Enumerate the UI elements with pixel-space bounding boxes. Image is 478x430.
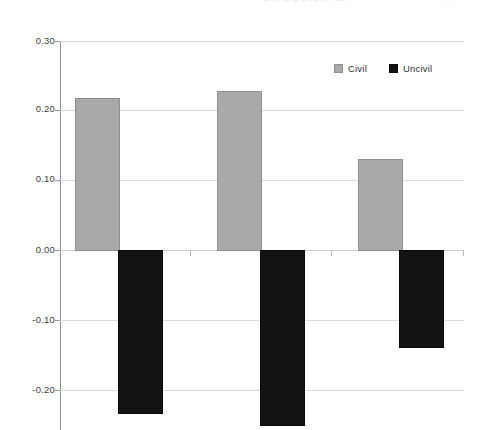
y-tick-label-3: 0.00 — [5, 244, 55, 255]
bar-uncivil-group-3 — [399, 250, 444, 348]
legend-label-uncivil: Uncivil — [403, 63, 432, 74]
plot-area — [60, 41, 464, 430]
bar-uncivil-group-2 — [260, 250, 305, 426]
gridline-0.10 — [60, 180, 464, 181]
y-tick-label-5: -0.20 — [5, 384, 55, 395]
x-tick-mark-3 — [463, 251, 464, 256]
legend-label-civil: Civil — [348, 63, 367, 74]
gridline-0.20 — [60, 110, 464, 111]
y-tick-label-4: -0.10 — [5, 314, 55, 325]
x-tick-mark-2 — [331, 251, 332, 256]
legend-item-uncivil: Uncivil — [389, 63, 432, 74]
legend-swatch-icon-civil — [334, 64, 343, 73]
chart-legend: Civil Uncivil — [334, 61, 432, 75]
bar-chart: 0.30 0.20 0.10 0.00 -0.10 -0.20 — [0, 0, 478, 430]
legend-item-civil: Civil — [334, 63, 367, 74]
bar-civil-group-2 — [217, 91, 262, 251]
y-tick-label-2: 0.10 — [5, 173, 55, 184]
x-tick-mark-1 — [190, 251, 191, 256]
bar-uncivil-group-1 — [118, 250, 163, 414]
bar-civil-group-3 — [358, 159, 403, 251]
y-tick-label-0: 0.30 — [5, 35, 55, 46]
gridline-0.30 — [60, 41, 464, 42]
bar-civil-group-1 — [75, 98, 120, 251]
legend-swatch-icon-uncivil — [389, 64, 398, 73]
y-tick-label-1: 0.20 — [5, 103, 55, 114]
